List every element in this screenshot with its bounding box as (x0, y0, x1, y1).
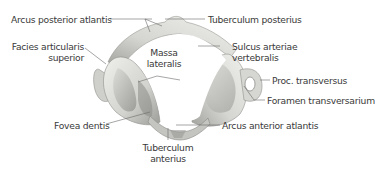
label-tuberculum-anterius: Tuberculum anterius (134, 142, 202, 164)
label-facies-articularis-superior: Facies articularis superior (8, 41, 84, 63)
label-line: Massa (144, 47, 184, 58)
label-line: Tuberculum (134, 142, 202, 153)
label-line: Facies articularis (8, 41, 84, 52)
label-line: lateralis (144, 58, 184, 69)
label-sulcus-arteriae-vertebralis: Sulcus arteriae vertebralis (232, 41, 297, 63)
label-line: superior (8, 52, 84, 63)
label-fovea-dentis: Fovea dentis (54, 120, 109, 131)
label-line: anterius (134, 153, 202, 164)
label-line: Sulcus arteriae (232, 41, 297, 52)
label-foramen-transversarium: Foramen transversarium (267, 95, 375, 106)
label-arcus-posterior-atlantis: Arcus posterior atlantis (11, 14, 112, 25)
label-line: vertebralis (232, 52, 297, 63)
label-proc-transversus: Proc. transversus (272, 75, 347, 86)
foramen-transversarium-hole (245, 77, 255, 91)
label-arcus-anterior-atlantis: Arcus anterior atlantis (222, 120, 318, 131)
label-massa-lateralis: Massa lateralis (144, 47, 184, 69)
label-tuberculum-posterius: Tuberculum posterius (208, 14, 302, 25)
